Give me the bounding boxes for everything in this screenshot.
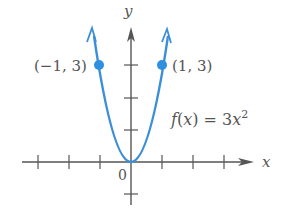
parabola-graph: y x 0 (−1, 3) (1, 3) f(x) = 3x2 [0,0,281,217]
equals-coef: = 3 [198,110,232,129]
y-axis-label: y [123,2,133,20]
exponent: 2 [241,108,248,121]
function-var2: x [232,110,241,129]
origin-label: 0 [118,167,127,183]
point-1-3 [157,60,167,70]
curve-arrow-left-icon [87,28,96,42]
function-label: f(x) = 3x2 [170,108,248,129]
x-axis-label: x [262,153,271,171]
point-neg1-3 [94,60,104,70]
parabola-curve [87,28,171,162]
point-label-neg1-3: (−1, 3) [34,57,87,75]
point-label-1-3: (1, 3) [172,57,212,75]
function-var: x [183,110,192,129]
